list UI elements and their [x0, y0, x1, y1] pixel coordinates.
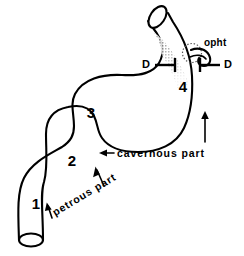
ophthalmic-artery-label: opht: [204, 38, 226, 48]
segment-number-4: 4: [179, 78, 188, 95]
distal-cut-end: [145, 3, 171, 31]
cavernous-part-label: cavernous part: [117, 148, 205, 159]
proximal-cut-end: [19, 234, 43, 247]
carotid-artery-diagram: 1 2 3 4 D D opht cavernous part petrous …: [0, 0, 244, 256]
segment-number-3: 3: [87, 104, 95, 121]
segment-number-2: 2: [68, 152, 76, 169]
vessel-body: [18, 3, 220, 247]
cavernous-pointer-arrow: [99, 149, 114, 156]
segment-number-1: 1: [32, 195, 40, 212]
dural-ring-label-left: D: [142, 59, 150, 70]
flow-direction-arrow: [201, 111, 209, 142]
dural-ring-label-right: D: [224, 59, 232, 70]
